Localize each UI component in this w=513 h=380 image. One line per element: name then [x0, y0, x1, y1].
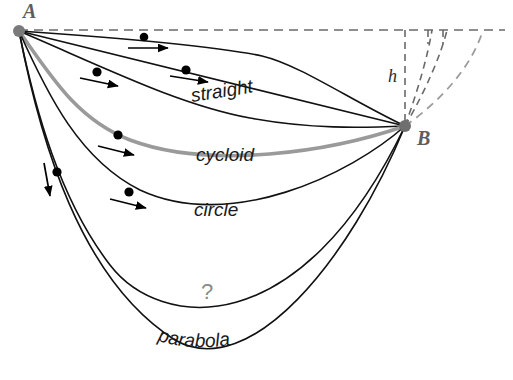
- figure-canvas: straightcycloidcircleparabolah? AB: [0, 0, 513, 380]
- dashed-curve-middle: [405, 30, 447, 126]
- motion-arrow-icon: [110, 199, 146, 208]
- motion-arrow-icon: [98, 146, 134, 155]
- label-circle: circle: [194, 199, 238, 220]
- curve-steep-inner: [19, 31, 405, 307]
- dashed-curve-outer: [405, 30, 483, 126]
- point-b-label: B: [416, 127, 430, 149]
- bead-steep-1: [52, 167, 61, 176]
- label-text-parabola: parabola: [155, 324, 231, 351]
- bead-straight-upper-2: [181, 65, 190, 74]
- curve-labels: straightcycloidcircleparabolah?: [150, 66, 397, 351]
- bead-circle-1: [124, 187, 133, 196]
- point-a-dot: [13, 25, 25, 37]
- dashed-curve-inner: [405, 30, 432, 126]
- motion-arrow-icon: [80, 78, 118, 86]
- question-mark-label: ?: [201, 279, 213, 304]
- brachistochrone-figure: straightcycloidcircleparabolah? AB: [0, 0, 513, 380]
- curve-straight: [19, 31, 405, 126]
- label-cycloid: cycloid: [196, 144, 256, 165]
- bead-straight-upper-1: [92, 67, 101, 76]
- bead-cycloid-1: [113, 130, 122, 139]
- point-b-dot: [399, 120, 411, 132]
- bead-upper-arc-1: [140, 33, 149, 42]
- dashed-construction-lines: [19, 30, 505, 126]
- point-a-label: A: [21, 0, 36, 22]
- motion-arrow-icon: [44, 163, 50, 196]
- label-parabola: parabola: [155, 324, 231, 351]
- height-label-h: h: [388, 66, 397, 86]
